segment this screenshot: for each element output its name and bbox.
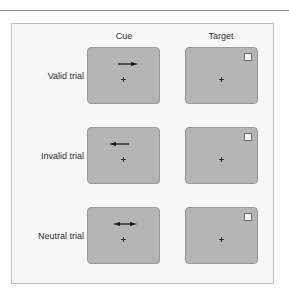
fixation-cross-icon — [219, 237, 224, 242]
cue-box-invalid — [87, 127, 160, 184]
arrow-left-icon — [109, 142, 129, 146]
column-header-cue: Cue — [87, 31, 161, 41]
target-box-valid — [185, 47, 258, 104]
target-square-icon — [244, 213, 252, 221]
fixation-cross-icon — [219, 157, 224, 162]
arrow-double-icon — [113, 222, 137, 226]
row-label-invalid: Invalid trial — [14, 151, 84, 161]
target-box-invalid — [185, 127, 258, 184]
top-rule — [0, 10, 289, 11]
fixation-cross-icon — [121, 237, 126, 242]
arrow-right-icon — [118, 62, 138, 66]
row-label-neutral: Neutral trial — [14, 231, 84, 241]
fixation-cross-icon — [121, 77, 126, 82]
target-square-icon — [244, 53, 252, 61]
row-label-valid: Valid trial — [14, 71, 84, 81]
target-square-icon — [244, 133, 252, 141]
cue-box-valid — [87, 47, 160, 104]
column-header-target: Target — [184, 31, 258, 41]
target-box-neutral — [185, 207, 258, 264]
cue-box-neutral — [87, 207, 160, 264]
fixation-cross-icon — [121, 157, 126, 162]
fixation-cross-icon — [219, 77, 224, 82]
